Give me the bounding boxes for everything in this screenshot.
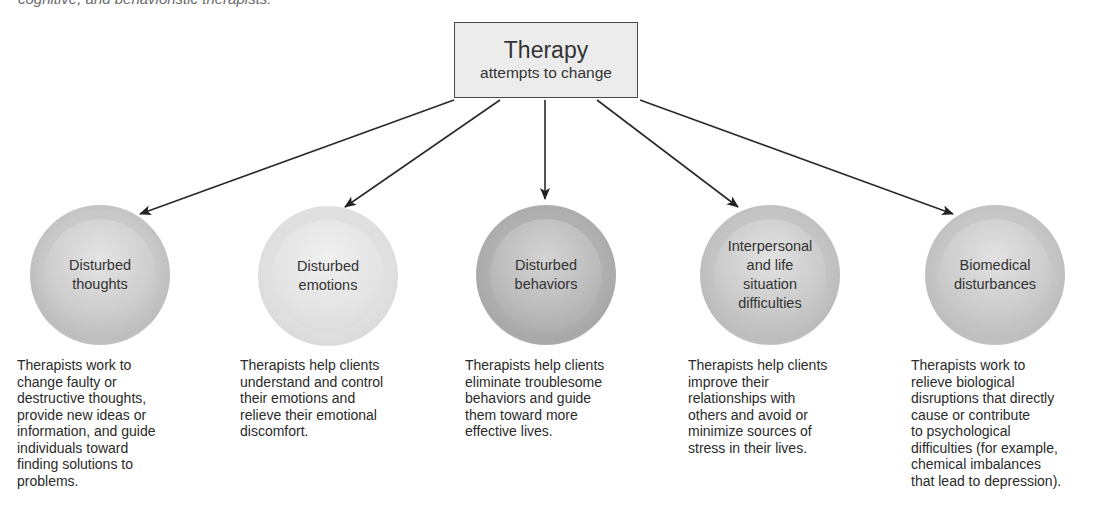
node-disturbed-emotions: Disturbed emotions — [258, 206, 398, 346]
node-label: Disturbed emotions — [297, 257, 359, 295]
node-biomedical-disturbances: Biomedical disturbances — [925, 205, 1065, 345]
arrow-to-emotions — [345, 100, 500, 207]
description-biomedical: Therapists work to relieve biological di… — [911, 357, 1061, 489]
node-disturbed-thoughts: Disturbed thoughts — [30, 205, 170, 345]
node-label: Biomedical disturbances — [954, 256, 1036, 294]
node-disturbed-behaviors: Disturbed behaviors — [476, 205, 616, 345]
arrow-to-biomedical — [640, 100, 953, 214]
description-interpersonal: Therapists help clients improve their re… — [688, 357, 827, 456]
description-thoughts: Therapists work to change faulty or dest… — [17, 357, 156, 489]
root-subtitle: attempts to change — [455, 63, 637, 83]
description-emotions: Therapists help clients understand and c… — [240, 357, 383, 440]
node-label: Disturbed thoughts — [69, 256, 131, 294]
root-title: Therapy — [455, 37, 637, 63]
node-label: Interpersonal and life situation difficu… — [728, 237, 813, 313]
therapy-root-box: Therapy attempts to change — [454, 22, 638, 98]
node-label: Disturbed behaviors — [515, 256, 578, 294]
arrow-to-interpersonal — [597, 100, 738, 207]
description-behaviors: Therapists help clients eliminate troubl… — [465, 357, 604, 440]
arrow-to-thoughts — [140, 100, 454, 214]
node-interpersonal-difficulties: Interpersonal and life situation difficu… — [700, 205, 840, 345]
